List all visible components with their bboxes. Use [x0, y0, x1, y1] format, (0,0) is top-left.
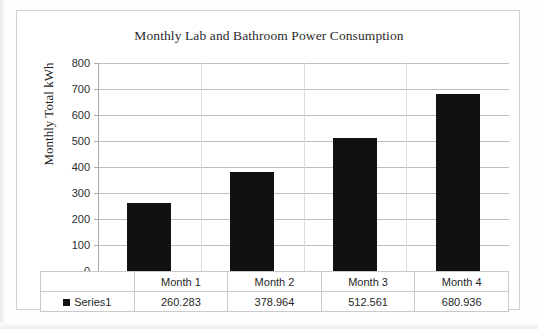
table-value-month-2: 378.964	[228, 292, 322, 312]
scan-edge-shadow-left	[0, 0, 5, 329]
scanned-page: Monthly Lab and Bathroom Power Consumpti…	[0, 0, 538, 329]
bar-month-2[interactable]	[230, 172, 274, 271]
y-tick-label-300: 300	[58, 187, 90, 199]
chart-data-table: Month 1 Month 2 Month 3 Month 4 Series1 …	[40, 271, 509, 312]
table-value-month-3: 512.561	[321, 292, 415, 312]
chart-title: Monthly Lab and Bathroom Power Consumpti…	[17, 28, 521, 44]
scan-edge-shadow-bottom	[0, 323, 538, 329]
category-separator-1	[201, 63, 202, 271]
table-header-month-2: Month 2	[228, 272, 322, 292]
legend-square-icon	[63, 299, 70, 306]
y-tick-label-800: 800	[58, 57, 90, 69]
bar-month-4[interactable]	[436, 94, 480, 271]
table-header-row: Month 1 Month 2 Month 3 Month 4	[41, 272, 509, 292]
y-axis-line	[98, 63, 99, 271]
y-axis-title: Monthly Total kWh	[41, 34, 57, 194]
table-header-month-4: Month 4	[415, 272, 509, 292]
category-separator-2	[304, 63, 305, 271]
table-value-row: Series1 260.283 378.964 512.561 680.936	[41, 292, 509, 312]
legend-entry-series1: Series1	[41, 292, 135, 312]
table-value-month-4: 680.936	[415, 292, 509, 312]
category-separator-3	[406, 63, 407, 271]
y-tick-label-400: 400	[58, 161, 90, 173]
y-tick-label-500: 500	[58, 135, 90, 147]
y-tick-label-100: 100	[58, 239, 90, 251]
plot-area: 8007006005004003002001000	[98, 63, 509, 271]
table-corner-cell	[41, 272, 135, 292]
legend-label: Series1	[74, 296, 111, 308]
y-tick-label-200: 200	[58, 213, 90, 225]
y-tick-label-700: 700	[58, 83, 90, 95]
bar-month-1[interactable]	[127, 203, 171, 271]
bar-month-3[interactable]	[333, 138, 377, 271]
table-header-month-1: Month 1	[134, 272, 228, 292]
chart-container: Monthly Lab and Bathroom Power Consumpti…	[16, 10, 520, 310]
table-value-month-1: 260.283	[134, 292, 228, 312]
table-header-month-3: Month 3	[321, 272, 415, 292]
y-tick-label-600: 600	[58, 109, 90, 121]
